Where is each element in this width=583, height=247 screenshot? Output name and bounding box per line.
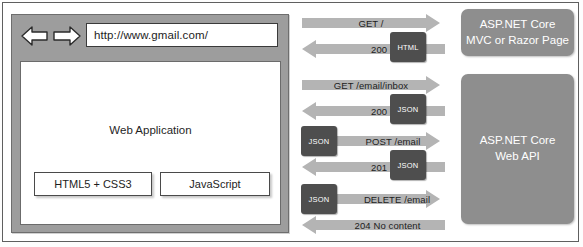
server-webapi-line1: ASP.NET Core: [480, 133, 556, 149]
payload-badge-json-post-request: JSON: [301, 126, 337, 156]
response-label-get-inbox: 200 OK: [302, 102, 459, 120]
address-bar[interactable]: http://www.gmail.com/: [86, 23, 278, 47]
payload-badge-json-post-response: JSON: [390, 150, 426, 180]
address-bar-text: http://www.gmail.com/: [87, 29, 208, 41]
browser-window: http://www.gmail.com/ Web Application HT…: [11, 14, 289, 233]
server-mvc-line1: ASP.NET Core: [480, 17, 556, 33]
response-arrow-delete-email: 204 No content: [302, 216, 445, 234]
browser-nav-arrows: [20, 24, 82, 48]
payload-badge-json-inbox: JSON: [390, 94, 426, 124]
payload-badge-html: HTML: [390, 32, 426, 62]
request-arrow-get-inbox: GET /email/inbox: [302, 76, 440, 94]
server-mvc-line2: MVC or Razor Page: [466, 33, 569, 49]
diagram-canvas: http://www.gmail.com/ Web Application HT…: [0, 0, 583, 247]
request-label-get-root: GET /: [302, 14, 454, 32]
javascript-box[interactable]: JavaScript: [160, 172, 270, 196]
request-arrow-get-root: GET /: [302, 14, 440, 32]
html-css-box[interactable]: HTML5 + CSS3: [34, 172, 152, 196]
server-box-webapi: ASP.NET Core Web API: [461, 74, 574, 224]
server-box-mvc: ASP.NET Core MVC or Razor Page: [461, 9, 574, 56]
response-label-delete-email: 204 No content: [302, 216, 459, 234]
server-webapi-line2: Web API: [495, 149, 540, 165]
arrow-left-icon: [22, 27, 47, 45]
payload-badge-json-delete-request: JSON: [301, 184, 337, 214]
request-label-get-inbox: GET /email/inbox: [302, 76, 454, 94]
web-application-label: Web Application: [21, 124, 280, 136]
browser-viewport: Web Application HTML5 + CSS3 JavaScript: [20, 61, 281, 225]
arrow-right-icon: [54, 27, 80, 45]
tech-stack-row: HTML5 + CSS3 JavaScript: [34, 172, 270, 196]
response-label-get-root: 200 OK: [302, 40, 459, 58]
browser-chrome: http://www.gmail.com/: [12, 15, 288, 56]
